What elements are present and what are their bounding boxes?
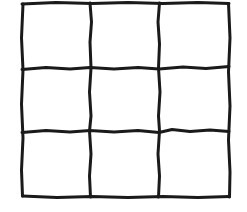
hand-drawn-grid: Row 1, Column 1Row 1, Column 2Row 1, Col… [0,0,247,212]
outer-left-edge: Left border [22,4,24,196]
cell-r1c3[interactable]: Row 1, Column 3 [162,6,227,66]
outer-bottom-edge: Bottom border [23,196,230,198]
inner-vertical-left: Left vertical divider [90,3,92,197]
grid-cell-layer: Row 1, Column 1Row 1, Column 2Row 1, Col… [24,6,227,195]
inner-horizontal-top: Top horizontal divider [22,67,229,70]
outer-right-edge: Right border [229,4,231,198]
cell-r3c2[interactable]: Row 3, Column 2 [93,134,157,195]
outer-top-edge: Top border [22,3,229,5]
inner-vertical-right: Right vertical divider [158,3,160,197]
drawing-canvas: Hand-drawn 3x3 grid A sketched tic-tac-t… [0,0,247,212]
cell-r1c2[interactable]: Row 1, Column 2 [93,6,157,66]
cell-r2c3[interactable]: Row 2, Column 3 [162,71,227,129]
cell-r2c2[interactable]: Row 2, Column 2 [93,71,157,129]
cell-r3c1[interactable]: Row 3, Column 1 [24,134,88,195]
cell-r2c1[interactable]: Row 2, Column 1 [24,71,88,129]
inner-horizontal-bottom: Bottom horizontal divider [22,130,229,133]
cell-r1c1[interactable]: Row 1, Column 1 [24,6,88,66]
cell-r3c3[interactable]: Row 3, Column 3 [162,134,227,195]
